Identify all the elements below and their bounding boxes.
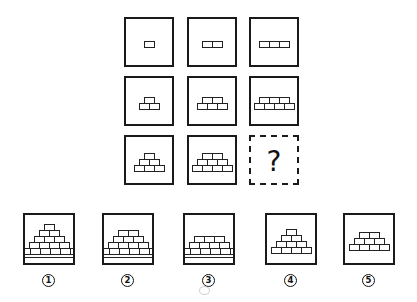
brick	[149, 103, 160, 110]
base-brick	[230, 248, 235, 255]
brick	[279, 41, 290, 48]
brick	[222, 165, 233, 172]
base-brick	[70, 248, 75, 255]
grid-cell	[124, 135, 174, 185]
option-3[interactable]	[183, 213, 235, 265]
option-1[interactable]	[23, 213, 75, 265]
grid-cell	[124, 17, 174, 67]
brick	[284, 103, 295, 110]
ground-line	[104, 257, 152, 258]
brick	[154, 165, 165, 172]
option-label-4[interactable]: 4	[284, 274, 297, 287]
grid-cell	[249, 17, 299, 67]
grid-cell	[187, 135, 237, 185]
cursor-smudge	[199, 286, 210, 295]
option-label-2[interactable]: 2	[121, 274, 134, 287]
brick	[144, 41, 155, 48]
grid-cell	[187, 76, 237, 126]
ground-line	[185, 257, 233, 258]
question-mark: ?	[251, 145, 297, 178]
brick	[379, 244, 390, 251]
option-label-5[interactable]: 5	[362, 274, 375, 287]
brick	[212, 41, 223, 48]
option-4[interactable]	[265, 213, 317, 265]
brick	[217, 103, 228, 110]
unknown-cell: ?	[249, 135, 299, 185]
option-label-1[interactable]: 1	[42, 274, 55, 287]
ground-line	[25, 257, 73, 258]
base-brick	[149, 248, 154, 255]
grid-cell	[124, 76, 174, 126]
option-2[interactable]	[102, 213, 154, 265]
grid-cell	[249, 76, 299, 126]
brick	[301, 247, 312, 254]
option-5[interactable]	[343, 213, 395, 265]
grid-cell	[187, 17, 237, 67]
